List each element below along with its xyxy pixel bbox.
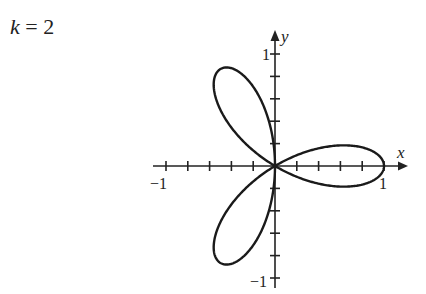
x-min-label: −1 [150,175,167,192]
x-axis-arrow-icon [398,162,408,171]
polar-rose-plot: x y −1 1 1 −1 [0,0,426,294]
y-axis-arrow-icon [271,30,280,41]
x-axis-label: x [396,143,405,162]
y-min-label: −1 [250,273,267,290]
axes [153,30,408,288]
y-max-label: 1 [262,46,270,63]
x-max-label: 1 [379,175,387,192]
y-axis-label: y [279,27,289,46]
